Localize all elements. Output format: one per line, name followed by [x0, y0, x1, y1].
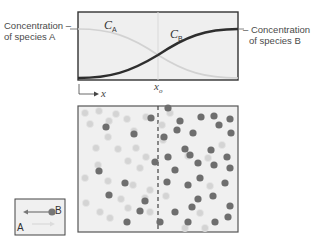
particle [124, 157, 131, 164]
particle [181, 145, 188, 152]
particle [151, 158, 158, 165]
particle [196, 209, 203, 216]
particle [156, 218, 163, 225]
particle [186, 151, 193, 158]
label-species-b: – Concentration of species B [243, 24, 310, 46]
particle [158, 121, 165, 128]
particle [104, 177, 111, 184]
particle [123, 115, 130, 122]
particle [163, 178, 170, 185]
particle [162, 192, 169, 199]
particle [130, 130, 137, 137]
particle [201, 224, 208, 231]
particle [197, 113, 204, 120]
label-a-line2: of species A [4, 31, 71, 42]
particle [184, 218, 191, 225]
particle [188, 203, 195, 210]
particle [215, 121, 222, 128]
legend-b-label: B [55, 205, 62, 216]
particle [164, 153, 171, 160]
particle [189, 129, 196, 136]
label-b-line1: – Concentration [243, 24, 310, 35]
particle [105, 191, 112, 198]
particle [117, 195, 124, 202]
particle [146, 186, 153, 193]
particle [142, 153, 149, 160]
label-species-a: Concentration – of species A [4, 20, 71, 42]
particle [164, 104, 171, 111]
particle [96, 208, 103, 215]
x-axis-arrow [79, 84, 99, 97]
particle [95, 167, 102, 174]
particle [160, 133, 167, 140]
particle [210, 161, 217, 168]
particle [221, 179, 228, 186]
particle [176, 117, 183, 124]
particle [147, 114, 154, 121]
particle [226, 202, 233, 209]
particle [136, 207, 143, 214]
particle [227, 129, 234, 136]
particle [184, 181, 191, 188]
particle [194, 159, 201, 166]
particle [211, 218, 218, 225]
particle [124, 204, 131, 211]
particle [210, 112, 217, 119]
particle [102, 123, 109, 130]
xo-label: xo [154, 81, 162, 97]
curve-cb-label: CB [170, 29, 183, 44]
particle [226, 115, 233, 122]
particle [194, 195, 201, 202]
particle [129, 181, 136, 188]
particle [223, 153, 230, 160]
particle [86, 120, 93, 127]
particle [92, 144, 99, 151]
particle [136, 164, 143, 171]
particle [81, 174, 88, 181]
curve-ca-label: CA [104, 20, 117, 35]
label-a-line1: Concentration – [4, 20, 71, 31]
particle [82, 199, 89, 206]
particle [226, 164, 233, 171]
label-b-line2: of species B [243, 35, 310, 46]
particle [112, 110, 119, 117]
particle [95, 107, 102, 114]
particle [224, 213, 231, 220]
particle [171, 208, 178, 215]
particle [94, 161, 101, 168]
particle [141, 197, 148, 204]
particle [146, 208, 153, 215]
particle [209, 192, 216, 199]
particle [121, 179, 128, 186]
particle [218, 141, 225, 148]
particle [206, 182, 213, 189]
particle [114, 145, 121, 152]
particle [204, 154, 211, 161]
particle [104, 133, 111, 140]
particle [106, 214, 113, 221]
particle [173, 126, 180, 133]
x-axis-label: x [101, 88, 106, 99]
particle-box [78, 104, 238, 232]
particle [207, 146, 214, 153]
particle [196, 174, 203, 181]
legend-a-label: A [17, 222, 24, 233]
particle [132, 144, 139, 151]
concentration-graph [70, 12, 244, 80]
particle [171, 166, 178, 173]
particle [81, 109, 88, 116]
particle [123, 218, 130, 225]
